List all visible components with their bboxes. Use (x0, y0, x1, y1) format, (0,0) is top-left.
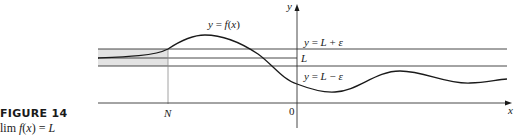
limit-label: L (300, 52, 307, 64)
limit-diagram: y = f(x) y = L + ε L y = L − ε N 0 x y (0, 0, 515, 139)
y-axis-label: y (286, 0, 292, 12)
upper-bound-label: y = L + ε (303, 36, 343, 48)
y-axis-arrow-icon (295, 4, 300, 11)
lower-bound-label: y = L − ε (303, 70, 343, 82)
x-axis-label: x (507, 104, 513, 116)
figure-caption: lim f(x) = L (0, 121, 55, 136)
figure-title: FIGURE 14 (0, 107, 67, 120)
curve-label: y = f(x) (207, 18, 240, 31)
n-label: N (163, 107, 172, 119)
origin-label: 0 (289, 105, 295, 117)
